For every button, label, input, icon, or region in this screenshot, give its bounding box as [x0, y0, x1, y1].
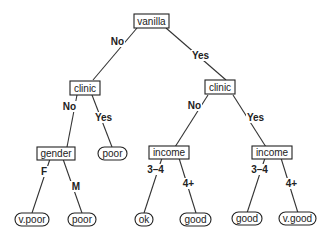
node-label: clinic [209, 82, 231, 93]
node-label: income [153, 147, 186, 158]
leaf-label: ok [139, 214, 151, 225]
leaf-vpoor: v.poor [15, 213, 49, 226]
leaf-label: good [184, 214, 206, 225]
node-clinic-left: clinic [70, 81, 100, 95]
decision-nodes: vanilla clinic clinic gender income inco… [37, 14, 292, 160]
leaf-poor-yes: poor [98, 147, 127, 160]
edge-label-income-left-34: 3–4 [147, 164, 164, 175]
leaf-good-left: good [180, 213, 211, 226]
leaf-label: good [236, 213, 258, 224]
leaf-label: poor [102, 148, 123, 159]
node-gender: gender [37, 147, 75, 160]
leaf-good-right: good [232, 212, 262, 225]
edge-label-root-no: No [111, 36, 124, 47]
edge-labels: No Yes No Yes No Yes F M 3–4 4+ 3–4 4+ [39, 36, 299, 192]
node-label: vanilla [137, 16, 166, 27]
node-label: gender [40, 148, 72, 159]
edge-label-clinic-right-yes: Yes [247, 112, 265, 123]
edge-label-gender-f: F [41, 166, 47, 177]
node-vanilla: vanilla [134, 14, 169, 28]
edge-label-clinic-right-no: No [188, 100, 201, 111]
leaf-label: poor [72, 214, 93, 225]
node-income-left: income [149, 146, 189, 159]
edge-label-clinic-left-no: No [63, 101, 76, 112]
edge-label-income-left-4plus: 4+ [183, 178, 195, 189]
edge-label-clinic-left-yes: Yes [95, 112, 113, 123]
edge-label-income-right-34: 3–4 [251, 164, 268, 175]
leaf-ok: ok [135, 213, 153, 226]
edge-label-income-right-4plus: 4+ [286, 178, 298, 189]
edge-label-root-yes: Yes [192, 50, 210, 61]
edge-label-gender-m: M [72, 181, 80, 192]
leaf-vgood: v.good [279, 212, 316, 225]
node-label: income [256, 147, 289, 158]
node-label: clinic [74, 83, 96, 94]
node-income-right: income [252, 146, 292, 159]
node-clinic-right: clinic [205, 80, 235, 94]
leaf-label: v.good [283, 213, 312, 224]
leaf-poor-m: poor [68, 213, 96, 226]
decision-tree-diagram: No Yes No Yes No Yes F M 3–4 4+ 3–4 4+ v… [0, 0, 332, 237]
leaf-label: v.poor [18, 214, 46, 225]
